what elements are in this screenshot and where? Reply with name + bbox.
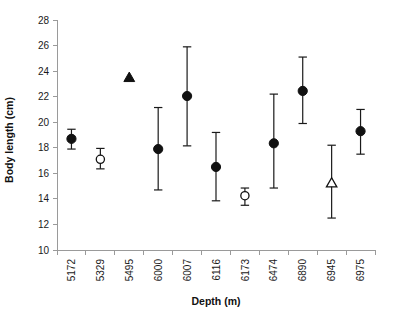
x-tick-label: 6116 — [211, 259, 222, 281]
y-axis-title: Body length (cm) — [3, 97, 15, 183]
y-tick-label: 26 — [38, 40, 50, 51]
x-tick-label: 6007 — [182, 259, 193, 282]
marker-filled-circle — [269, 139, 278, 148]
x-tick-label: 5329 — [95, 259, 106, 282]
chart-container: 10121416182022242628 5172532954956000600… — [0, 0, 393, 317]
marker-filled-circle — [298, 86, 307, 95]
marker-open-circle — [241, 192, 249, 200]
x-tick-label: 6173 — [240, 259, 251, 282]
y-tick-label: 22 — [38, 91, 50, 102]
body-length-vs-depth-scatter-chart: 10121416182022242628 5172532954956000600… — [0, 0, 393, 317]
marker-filled-circle — [211, 162, 220, 171]
y-tick-label: 18 — [38, 142, 50, 153]
marker-filled-circle — [67, 134, 76, 143]
marker-open-circle — [96, 155, 104, 163]
x-tick-label: 6890 — [297, 259, 308, 282]
x-axis-title: Depth (m) — [192, 295, 241, 307]
y-tick-label: 16 — [38, 168, 50, 179]
x-tick-label: 5495 — [124, 259, 135, 282]
x-tick-label: 6000 — [153, 259, 164, 282]
marker-filled-circle — [356, 127, 365, 136]
y-tick-label: 24 — [38, 66, 50, 77]
y-tick-label: 28 — [38, 15, 50, 26]
x-tick-label: 6945 — [326, 259, 337, 282]
marker-filled-circle — [182, 91, 191, 100]
y-tick-label: 20 — [38, 117, 50, 128]
y-tick-label: 12 — [38, 219, 50, 230]
x-tick-label: 6474 — [268, 259, 279, 282]
marker-filled-circle — [154, 144, 163, 153]
x-tick-label: 5172 — [66, 259, 77, 282]
y-tick-label: 14 — [38, 193, 50, 204]
y-tick-label: 10 — [38, 245, 50, 256]
x-tick-label: 6975 — [355, 259, 366, 282]
